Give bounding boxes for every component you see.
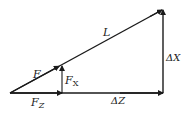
label-L: L xyxy=(102,26,110,39)
label-Fx-sub: X xyxy=(73,79,79,88)
label-Fz: FZ xyxy=(30,96,45,110)
hypotenuse-arrow-tip xyxy=(150,10,162,17)
label-Fx-main: F xyxy=(64,74,73,87)
label-delta-x: ΔX xyxy=(165,52,181,63)
label-F: F xyxy=(32,68,41,81)
diagram-canvas: L F FX FZ ΔX ΔZ xyxy=(0,0,181,117)
label-Fx: FX xyxy=(64,74,79,88)
label-Fz-sub: Z xyxy=(38,101,45,110)
label-Fz-main: F xyxy=(30,96,39,109)
label-delta-z: ΔZ xyxy=(110,95,126,106)
force-triangle-diagram: L F FX FZ ΔX ΔZ xyxy=(0,0,181,117)
